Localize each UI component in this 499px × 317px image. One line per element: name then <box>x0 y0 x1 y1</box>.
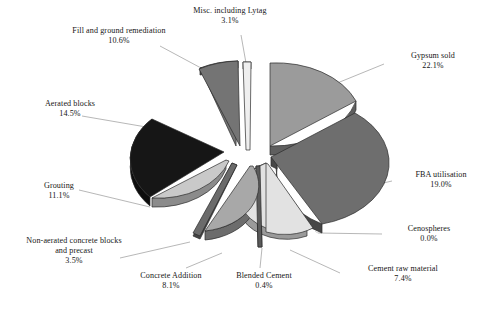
leader-line-fill-ground <box>160 46 201 68</box>
label-gypsum: Gypsum sold 22.1% <box>390 51 476 71</box>
label-cement-raw-category: Cement raw material <box>344 264 462 274</box>
label-concrete-addition-percent: 8.1% <box>116 281 226 291</box>
label-blended-cement-category: Blended Cement <box>216 271 312 281</box>
pie-top-faces <box>130 61 389 247</box>
label-cenospheres: Cenospheres 0.0% <box>386 224 472 244</box>
label-cenospheres-category: Cenospheres <box>386 224 472 234</box>
label-non-aerated-category-line1: Non-aerated concrete blocks <box>6 236 142 246</box>
leader-line-cement-raw <box>290 250 340 273</box>
label-grouting-category: Grouting <box>20 181 98 191</box>
label-gypsum-category: Gypsum sold <box>390 51 476 61</box>
label-non-aerated-percent: 3.5% <box>6 256 142 266</box>
label-fill-ground: Fill and ground remediation 10.6% <box>56 26 182 46</box>
label-non-aerated: Non-aerated concrete blocks and precast … <box>6 236 142 267</box>
label-fba-category: FBA utilisation <box>396 170 486 180</box>
label-blended-cement-percent: 0.4% <box>216 281 312 291</box>
leader-line-concrete-addition <box>186 253 222 268</box>
label-cenospheres-percent: 0.0% <box>386 234 472 244</box>
label-aerated-blocks-percent: 14.5% <box>22 109 118 119</box>
label-concrete-addition-category: Concrete Addition <box>116 271 226 281</box>
label-non-aerated-category-line2: and precast <box>6 246 142 256</box>
label-concrete-addition: Concrete Addition 8.1% <box>116 271 226 291</box>
label-fill-ground-category: Fill and ground remediation <box>56 26 182 36</box>
label-fill-ground-percent: 10.6% <box>56 36 182 46</box>
label-cement-raw: Cement raw material 7.4% <box>344 264 462 284</box>
label-cement-raw-percent: 7.4% <box>344 274 462 284</box>
label-gypsum-percent: 22.1% <box>390 61 476 71</box>
label-blended-cement: Blended Cement 0.4% <box>216 271 312 291</box>
label-aerated-blocks: Aerated blocks 14.5% <box>22 99 118 119</box>
leader-line-cenospheres <box>318 233 382 234</box>
slice-top-misc-lytag <box>243 62 251 150</box>
label-misc-lytag: Misc. including Lytag 3.1% <box>170 6 290 26</box>
label-grouting: Grouting 11.1% <box>20 181 98 201</box>
leader-line-blended-cement <box>260 248 262 268</box>
leader-line-misc-lytag <box>241 35 246 63</box>
slice-top-fill-ground-body <box>199 61 240 146</box>
pie-chart-figure: Misc. including Lytag 3.1% Fill and grou… <box>0 0 499 317</box>
label-fba-percent: 19.0% <box>396 180 486 190</box>
label-grouting-percent: 11.1% <box>20 191 98 201</box>
label-aerated-blocks-category: Aerated blocks <box>22 99 118 109</box>
label-misc-lytag-percent: 3.1% <box>170 16 290 26</box>
label-fba: FBA utilisation 19.0% <box>396 170 486 190</box>
label-misc-lytag-category: Misc. including Lytag <box>170 6 290 16</box>
